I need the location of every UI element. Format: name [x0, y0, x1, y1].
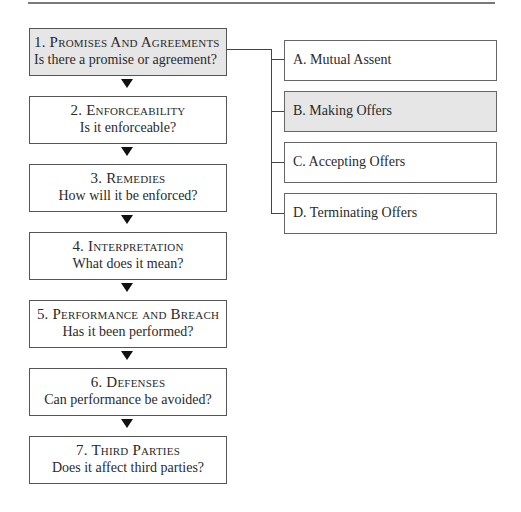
step-question: Can performance be avoided?	[30, 391, 226, 409]
substep-making-offers[interactable]: B. Making Offers	[284, 91, 497, 132]
step-remedies[interactable]: 3. Remedies How will it be enforced?	[29, 164, 227, 212]
step-title: Remedies	[106, 170, 165, 186]
substep-label: B. Making Offers	[293, 103, 392, 119]
step-question: How will it be enforced?	[30, 187, 226, 205]
step-number: 7.	[76, 442, 88, 458]
substep-terminating-offers[interactable]: D. Terminating Offers	[284, 193, 497, 234]
step-question: Is there a promise or agreement?	[30, 51, 226, 69]
connector-branch-a	[271, 59, 284, 60]
step-title: Defenses	[106, 374, 165, 390]
substep-label: D. Terminating Offers	[293, 205, 417, 221]
step-interpretation[interactable]: 4. Interpretation What does it mean?	[29, 232, 227, 280]
substep-label: A. Mutual Assent	[293, 52, 391, 68]
step-title: Interpretation	[88, 238, 184, 254]
step-question: Does it affect third parties?	[30, 459, 226, 477]
step-number: 4.	[72, 238, 84, 254]
substep-label: C. Accepting Offers	[293, 154, 405, 170]
step-number: 6.	[91, 374, 103, 390]
step-third-parties[interactable]: 7. Third Parties Does it affect third pa…	[29, 436, 227, 484]
step-enforceability[interactable]: 2. Enforceability Is it enforceable?	[29, 96, 227, 144]
down-arrow-icon	[121, 79, 133, 88]
connector-horizontal	[226, 49, 272, 50]
step-question: What does it mean?	[30, 255, 226, 273]
down-arrow-icon	[121, 351, 133, 360]
step-number: 5.	[37, 306, 49, 322]
step-number: 3.	[91, 170, 103, 186]
connector-branch-d	[271, 213, 284, 214]
step-question: Has it been performed?	[30, 323, 226, 341]
step-title: Performance and Breach	[53, 306, 220, 322]
step-title: Promises And Agreements	[50, 34, 220, 50]
step-question: Is it enforceable?	[30, 119, 226, 137]
connector-branch-c	[271, 162, 284, 163]
down-arrow-icon	[121, 215, 133, 224]
step-title: Enforceability	[86, 102, 185, 118]
connector-branch-b	[271, 111, 284, 112]
step-defenses[interactable]: 6. Defenses Can performance be avoided?	[29, 368, 227, 416]
step-promises-and-agreements[interactable]: 1. Promises And Agreements Is there a pr…	[29, 28, 227, 76]
down-arrow-icon	[121, 147, 133, 156]
step-performance-and-breach[interactable]: 5. Performance and Breach Has it been pe…	[29, 300, 227, 348]
step-title: Third Parties	[91, 442, 180, 458]
top-divider	[28, 2, 495, 4]
step-number: 2.	[71, 102, 83, 118]
step-number: 1.	[34, 34, 46, 50]
down-arrow-icon	[121, 283, 133, 292]
substep-mutual-assent[interactable]: A. Mutual Assent	[284, 40, 497, 81]
connector-vertical	[271, 49, 272, 214]
down-arrow-icon	[121, 419, 133, 428]
substep-accepting-offers[interactable]: C. Accepting Offers	[284, 142, 497, 183]
